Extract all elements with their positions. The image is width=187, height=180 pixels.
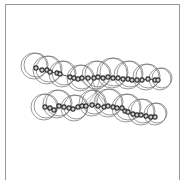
atom	[106, 75, 110, 79]
atom	[48, 70, 52, 74]
atom	[144, 114, 148, 118]
atom	[86, 76, 90, 80]
vdw-sphere	[136, 64, 160, 88]
molecule-diagram	[0, 0, 187, 180]
atom	[140, 78, 144, 82]
atom	[121, 77, 125, 81]
atom	[90, 103, 94, 107]
atom	[62, 105, 66, 109]
atom	[43, 105, 47, 109]
atom	[153, 115, 157, 119]
atom	[96, 75, 100, 79]
atom	[116, 76, 120, 80]
atom	[126, 110, 130, 114]
atom	[34, 66, 38, 70]
vdw-sphere	[147, 103, 167, 123]
atom	[130, 78, 134, 82]
atom	[135, 78, 139, 82]
atom	[106, 104, 110, 108]
atom	[146, 77, 150, 81]
vdw-sphere	[46, 90, 72, 116]
atom	[139, 113, 143, 117]
atom	[40, 68, 44, 72]
vdw-sphere	[117, 61, 143, 87]
atom	[84, 104, 88, 108]
atom	[111, 76, 115, 80]
bridge-line	[96, 78, 100, 92]
atom	[71, 107, 75, 111]
vdw-spheres	[21, 53, 172, 125]
atom	[101, 76, 105, 80]
atom	[57, 104, 61, 108]
atom	[58, 72, 62, 76]
atom	[156, 78, 160, 82]
atom	[96, 104, 100, 108]
atom	[115, 106, 119, 110]
vdw-sphere	[97, 89, 123, 115]
atom	[80, 76, 84, 80]
atom	[52, 108, 56, 112]
